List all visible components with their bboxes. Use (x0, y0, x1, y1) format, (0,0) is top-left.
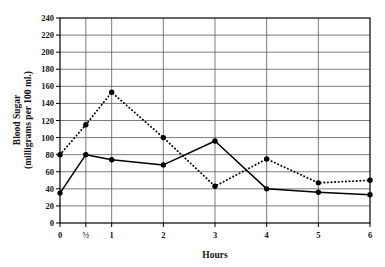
y-tick-label: 220 (41, 30, 54, 40)
data-point (161, 135, 166, 140)
y-tick-label: 140 (41, 98, 54, 108)
data-point (57, 152, 62, 157)
y-tick-label: 0 (50, 218, 54, 228)
x-tick-label: ½ (83, 230, 90, 240)
data-point (212, 184, 217, 189)
data-point (57, 190, 62, 195)
data-point (212, 138, 217, 143)
x-axis-ticks: 0½123456 (58, 223, 372, 240)
data-point (367, 192, 372, 197)
data-point (109, 157, 114, 162)
x-tick-label: 3 (213, 230, 217, 240)
data-point (264, 156, 269, 161)
y-tick-label: 160 (41, 81, 54, 91)
y-axis-title-line1: Blood Sugar (12, 94, 22, 145)
y-tick-label: 200 (41, 47, 54, 57)
y-tick-label: 80 (46, 150, 55, 160)
y-axis-title-line2: (milligrams per 100 ml.) (23, 71, 34, 169)
data-point (83, 122, 88, 127)
data-point (161, 162, 166, 167)
y-tick-label: 180 (41, 64, 54, 74)
x-tick-label: 4 (265, 230, 270, 240)
y-tick-label: 60 (46, 167, 55, 177)
chart-canvas: 020406080100120140160180200220240 0½1234… (0, 0, 385, 267)
x-tick-label: 1 (110, 230, 114, 240)
data-point (316, 190, 321, 195)
data-point (109, 90, 114, 95)
blood-sugar-chart-figure: 020406080100120140160180200220240 0½1234… (0, 0, 385, 267)
y-tick-label: 40 (46, 184, 55, 194)
data-point (367, 178, 372, 183)
data-point (316, 180, 321, 185)
x-tick-label: 6 (368, 230, 372, 240)
y-axis-ticks: 020406080100120140160180200220240 (41, 13, 60, 228)
y-tick-label: 120 (41, 116, 54, 126)
x-axis-title: Hours (202, 250, 228, 260)
x-tick-label: 2 (161, 230, 165, 240)
y-tick-label: 100 (41, 133, 54, 143)
data-point (83, 152, 88, 157)
y-tick-label: 20 (46, 201, 55, 211)
data-point (264, 186, 269, 191)
x-tick-label: 5 (316, 230, 320, 240)
y-tick-label: 240 (41, 13, 54, 23)
x-tick-label: 0 (58, 230, 62, 240)
